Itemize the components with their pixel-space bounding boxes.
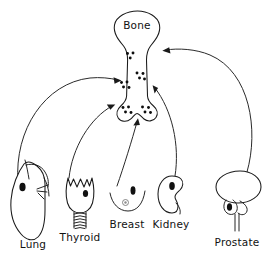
met-dot [149, 111, 152, 114]
met-dot [124, 111, 127, 114]
breast-nipple-center [124, 201, 126, 203]
prostate-lesion [227, 203, 232, 211]
bone-figure: Bone [114, 11, 159, 121]
met-dot [129, 57, 132, 60]
thyroid-outline [66, 178, 94, 213]
lung-label: Lung [20, 238, 46, 250]
kidney-figure: Kidney [153, 176, 190, 230]
met-dot [122, 106, 125, 109]
prostate-figure: Prostate [215, 171, 261, 248]
thyroid-lesion [83, 190, 88, 197]
prostate-arrow-head [162, 47, 170, 53]
met-dot [126, 81, 129, 84]
thyroid-to-bone-arrow [69, 104, 115, 178]
trachea-rings [74, 213, 86, 229]
bladder-outline [216, 171, 261, 203]
met-dot [128, 86, 131, 89]
kidney-arrow-head [153, 85, 159, 93]
met-dot [138, 77, 141, 80]
prostate-label: Prostate [215, 236, 260, 248]
met-dot [142, 72, 145, 75]
met-dot [126, 52, 129, 55]
lung-lesion [19, 183, 25, 192]
breast-label: Breast [110, 218, 145, 230]
met-dot [120, 81, 123, 84]
bone-label: Bone [123, 19, 151, 31]
met-dot [122, 86, 125, 89]
breast-lesion [131, 186, 136, 194]
met-dot [141, 106, 144, 109]
met-dot [130, 111, 133, 114]
lung-figure: Lung [11, 160, 49, 250]
thyroid-label: Thyroid [59, 231, 101, 243]
thyroid-arrow-path [69, 106, 112, 178]
breast-arrow-path [117, 122, 137, 186]
kidney-arrow-path [155, 88, 176, 176]
met-dot [132, 52, 135, 55]
kidney-label: Kidney [153, 218, 190, 230]
kidney-lesion [169, 182, 175, 190]
met-dot [143, 78, 146, 81]
breast-arrow-head [133, 118, 140, 125]
diagram-canvas: Bone [0, 0, 274, 263]
met-dot [127, 106, 130, 109]
met-dot [147, 106, 150, 109]
prostate-to-bone-arrow [162, 47, 252, 172]
thyroid-figure: Thyroid [59, 178, 101, 243]
kidney-to-bone-arrow [153, 85, 177, 176]
breast-to-bone-arrow [117, 118, 140, 186]
met-dot [144, 111, 147, 114]
metastasis-diagram: Bone [0, 0, 274, 263]
thyroid-arrow-head [107, 104, 116, 109]
breast-figure: Breast [110, 186, 145, 230]
prostate-arrow-path [166, 49, 252, 172]
met-dot [136, 72, 139, 75]
